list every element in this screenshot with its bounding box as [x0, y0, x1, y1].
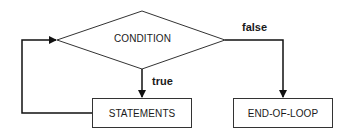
statements-label: STATEMENTS	[109, 108, 176, 119]
true-edge-label: true	[152, 75, 173, 87]
false-edge-arrow	[225, 40, 283, 97]
end-of-loop-box: END-OF-LOOP	[233, 98, 333, 128]
false-edge-label: false	[242, 21, 267, 33]
condition-label: CONDITION	[114, 33, 171, 44]
flowchart-diagram: CONDITION true false STATEMENTS END-OF-L…	[0, 0, 347, 134]
end-of-loop-label: END-OF-LOOP	[248, 108, 319, 119]
loop-back-edge-arrow	[22, 40, 92, 113]
statements-box: STATEMENTS	[92, 98, 192, 128]
